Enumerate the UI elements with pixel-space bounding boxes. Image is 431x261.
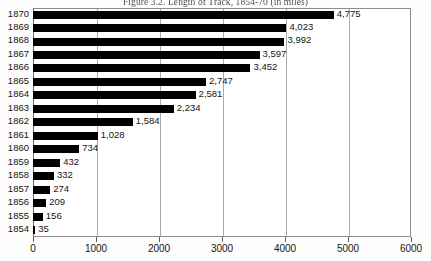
- bar-value-label-1867: 3,597: [260, 48, 287, 59]
- bar-row: 1,584: [33, 116, 411, 129]
- bar-1861: [33, 132, 98, 140]
- bar-1868: [33, 38, 284, 46]
- y-axis-label-1864: 1864: [8, 88, 29, 99]
- y-axis-label-1857: 1857: [8, 183, 29, 194]
- bar-value-label-1854: 35: [35, 223, 49, 234]
- bar-row: 1,028: [33, 129, 411, 142]
- bar-value-label-1868: 3,992: [284, 34, 311, 45]
- bar-row: 35: [33, 224, 411, 237]
- x-axis-label-1000: 1000: [85, 243, 107, 254]
- bar-1862: [33, 118, 133, 126]
- y-axis-label-1862: 1862: [8, 115, 29, 126]
- y-axis-label-1867: 1867: [8, 48, 29, 59]
- bar-1867: [33, 51, 260, 59]
- bar-row: 3,452: [33, 62, 411, 75]
- x-axis-label-6000: 6000: [400, 243, 422, 254]
- figure-title: Figure 3.2. Length of Track, 1854-70 (in…: [0, 0, 431, 7]
- bar-row: 4,775: [33, 8, 411, 21]
- y-axis-label-1870: 1870: [8, 8, 29, 19]
- bar-row: 274: [33, 183, 411, 196]
- bar-1858: [33, 172, 54, 180]
- bar-row: 4,023: [33, 21, 411, 34]
- bar-value-label-1857: 274: [50, 183, 69, 194]
- bar-row: 3,992: [33, 35, 411, 48]
- x-tick-5000: [348, 237, 349, 242]
- x-tick-6000: [411, 237, 412, 242]
- bar-row: 332: [33, 170, 411, 183]
- y-axis-label-1859: 1859: [8, 156, 29, 167]
- bar-row: 2,747: [33, 75, 411, 88]
- bar-1863: [33, 105, 174, 113]
- x-tick-3000: [222, 237, 223, 242]
- bar-value-label-1859: 432: [60, 156, 79, 167]
- bar-1855: [33, 213, 43, 221]
- bar-1860: [33, 145, 79, 153]
- bar-value-label-1860: 734: [79, 142, 98, 153]
- figure-container: Figure 3.2. Length of Track, 1854-70 (in…: [0, 0, 431, 261]
- y-axis-label-1855: 1855: [8, 210, 29, 221]
- bar-series: 4,7754,0233,9923,5973,4522,7472,5812,234…: [33, 8, 411, 237]
- bar-value-label-1865: 2,747: [206, 75, 233, 86]
- bar-1859: [33, 159, 60, 167]
- bar-1856: [33, 199, 46, 207]
- x-tick-0: [33, 237, 34, 242]
- bar-row: 3,597: [33, 48, 411, 61]
- bar-value-label-1870: 4,775: [334, 8, 361, 19]
- x-axis-label-3000: 3000: [211, 243, 233, 254]
- y-axis-label-1861: 1861: [8, 129, 29, 140]
- bar-1866: [33, 64, 250, 72]
- bar-1865: [33, 78, 206, 86]
- x-axis-label-4000: 4000: [274, 243, 296, 254]
- bar-row: 2,581: [33, 89, 411, 102]
- bar-value-label-1869: 4,023: [286, 21, 313, 32]
- bar-row: 156: [33, 210, 411, 223]
- bar-value-label-1856: 209: [46, 196, 65, 207]
- x-axis-label-0: 0: [30, 243, 36, 254]
- bar-1857: [33, 186, 50, 194]
- bar-1869: [33, 24, 286, 32]
- bar-value-label-1864: 2,581: [196, 88, 223, 99]
- bar-value-label-1862: 1,584: [133, 115, 160, 126]
- y-axis-label-1858: 1858: [8, 169, 29, 180]
- y-axis-label-1854: 1854: [8, 223, 29, 234]
- bar-row: 2,234: [33, 102, 411, 115]
- bar-value-label-1863: 2,234: [174, 102, 201, 113]
- bar-row: 209: [33, 197, 411, 210]
- bar-value-label-1866: 3,452: [250, 61, 277, 72]
- x-axis-label-5000: 5000: [337, 243, 359, 254]
- x-axis-label-2000: 2000: [148, 243, 170, 254]
- x-tick-2000: [159, 237, 160, 242]
- bar-1864: [33, 91, 196, 99]
- y-axis-label-1860: 1860: [8, 142, 29, 153]
- y-axis-label-1869: 1869: [8, 21, 29, 32]
- x-tick-1000: [96, 237, 97, 242]
- bar-value-label-1858: 332: [54, 169, 73, 180]
- bar-row: 432: [33, 156, 411, 169]
- bar-1870: [33, 11, 334, 19]
- bar-row: 734: [33, 143, 411, 156]
- y-axis-label-1863: 1863: [8, 102, 29, 113]
- bar-value-label-1861: 1,028: [98, 129, 125, 140]
- y-axis-labels: 1870186918681867186618651864186318621861…: [0, 8, 31, 237]
- x-tick-4000: [285, 237, 286, 242]
- y-axis-label-1868: 1868: [8, 34, 29, 45]
- y-axis-label-1856: 1856: [8, 196, 29, 207]
- y-axis-label-1866: 1866: [8, 61, 29, 72]
- y-axis-label-1865: 1865: [8, 75, 29, 86]
- x-axis-labels: 0100020003000400050006000: [0, 243, 431, 257]
- bar-value-label-1855: 156: [43, 210, 62, 221]
